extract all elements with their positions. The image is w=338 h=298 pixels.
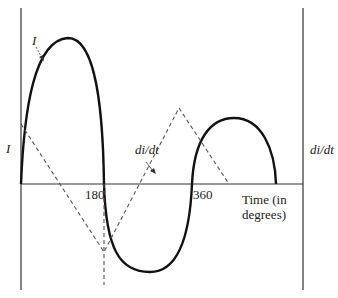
derivative-curve [21,108,229,252]
tick-label-360: 360 [193,188,213,202]
waveform-diagram [0,0,338,298]
current-axis-label: I [6,142,10,156]
x-axis-label-line1: Time (in [242,193,287,207]
derivative-curve-label: di/dt [135,143,159,157]
current-curve-label: I [32,34,36,48]
x-axis-label-line2: degrees) [242,208,286,222]
derivative-axis-label: di/dt [310,143,334,157]
tick-label-180: 180 [85,188,105,202]
